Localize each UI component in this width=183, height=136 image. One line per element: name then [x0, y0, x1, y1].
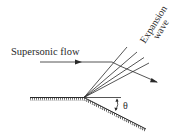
angle-indicator-icon — [114, 99, 118, 112]
angle-label: θ — [123, 100, 128, 111]
streamline — [40, 60, 158, 83]
flow-arrow-end-icon — [150, 78, 158, 83]
flow-arrow-icon — [75, 60, 82, 65]
expansion-fan — [84, 47, 149, 98]
expansion-wave-diagram: Supersonic flow Expansion wave θ — [0, 0, 183, 136]
upstream-wall — [30, 98, 84, 101]
downstream-wall — [83, 98, 146, 132]
flow-label: Supersonic flow — [11, 46, 80, 57]
